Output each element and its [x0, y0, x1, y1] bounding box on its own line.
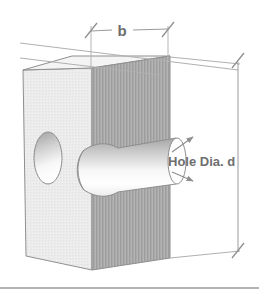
b-dimension-line-left — [91, 30, 112, 31]
hole-entry-ellipse — [34, 132, 62, 184]
figure-container: b Hole Dia. d — [0, 0, 259, 301]
width-dimension-label: b — [117, 22, 126, 39]
b-dimension-line-right — [133, 29, 168, 30]
height-extension-bottom — [170, 251, 240, 258]
hole-diameter-label: Hole Dia. d — [168, 154, 235, 169]
block-with-hole-diagram: b Hole Dia. d — [0, 0, 259, 301]
